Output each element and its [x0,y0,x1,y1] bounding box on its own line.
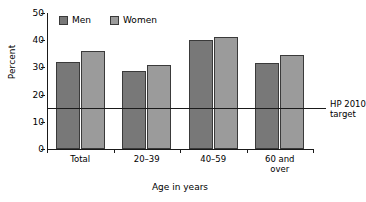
y-tick-mark [41,40,45,41]
y-tick-mark [41,13,45,14]
x-axis-title: Age in years [47,182,313,192]
hp-2010-target-line [47,108,326,109]
bar-women-2 [214,37,238,149]
bar-women-0 [81,51,105,149]
legend-swatch-men [59,16,68,25]
x-category-label: Total [47,154,114,164]
legend-label-women: Women [123,16,157,25]
legend-item-men: Men [59,16,91,25]
bar-men-1 [122,71,146,149]
y-tick-mark [41,149,45,150]
hp-2010-target-label-line1: HP 2010 [330,99,366,109]
x-tick-mark [313,149,314,153]
legend-swatch-women [110,16,119,25]
plot-area [47,13,313,149]
hp-2010-target-label: HP 2010 target [330,99,366,119]
x-category-label: 40–59 [180,154,247,164]
hp-2010-target-label-line2: target [330,109,366,119]
bar-men-2 [189,40,213,149]
bar-women-3 [280,55,304,149]
x-tick-mark [114,149,115,153]
y-axis-ticks: 01020304050 [0,0,44,202]
x-tick-mark [247,149,248,153]
y-tick-mark [41,67,45,68]
x-category-label: 20–39 [114,154,181,164]
bar-men-3 [255,63,279,149]
bar-men-0 [56,62,80,149]
legend-item-women: Women [110,16,157,25]
bar-women-1 [147,65,171,149]
x-category-label: 60 andover [247,154,314,174]
x-tick-mark [47,149,48,153]
y-tick-mark [41,95,45,96]
y-tick-mark [41,122,45,123]
x-tick-mark [180,149,181,153]
legend-label-men: Men [72,16,91,25]
